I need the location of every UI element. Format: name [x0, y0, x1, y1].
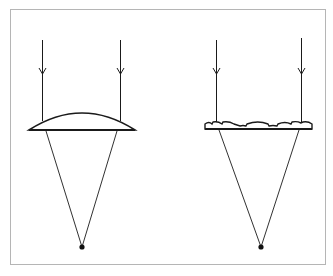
focal-point	[79, 244, 84, 249]
lens-diagram	[0, 0, 333, 276]
fresnel-lens	[205, 122, 312, 129]
fresnel-lens-panel	[205, 38, 312, 250]
refracted-ray-left	[46, 131, 82, 247]
refracted-ray-right	[82, 131, 117, 247]
convex-lens	[29, 113, 135, 130]
refracted-ray-left	[219, 130, 261, 247]
refracted-ray-right	[261, 130, 299, 247]
convex-lens-panel	[29, 40, 135, 250]
figure-frame	[11, 10, 326, 265]
focal-point	[258, 244, 263, 249]
